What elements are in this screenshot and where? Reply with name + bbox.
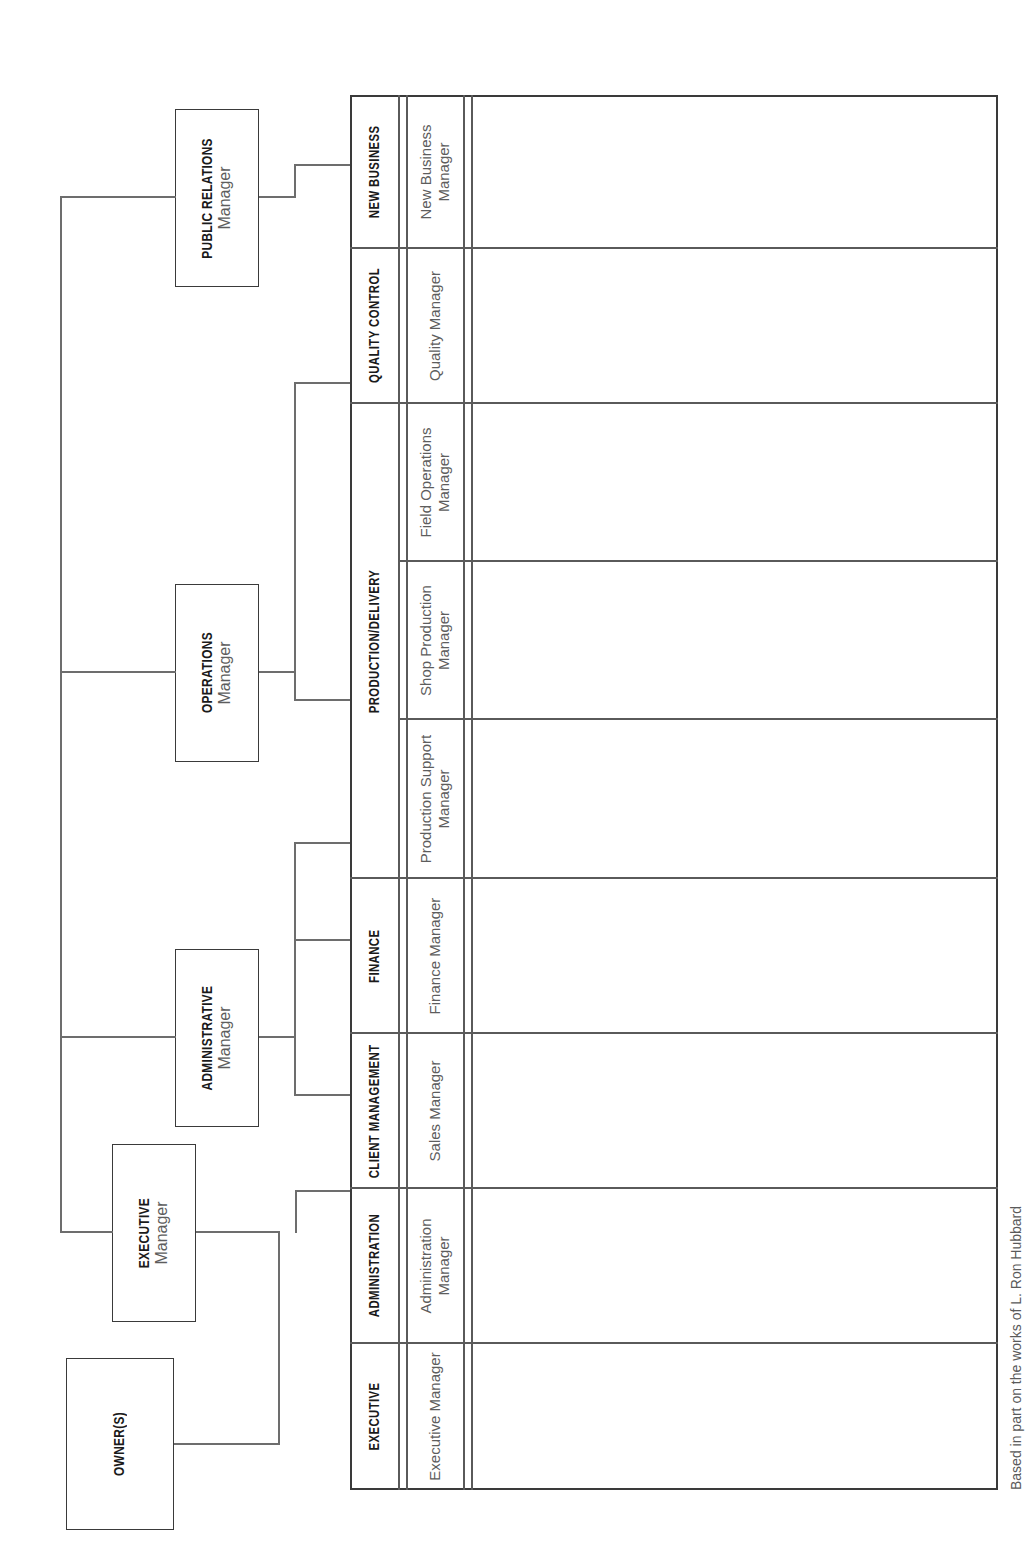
connector-owners-down <box>174 1444 279 1446</box>
matrix-col-divider-client-management <box>350 1033 998 1035</box>
node-public-relations-title: PUBLIC RELATIONS <box>200 138 216 259</box>
division-header-executive-label: EXECUTIVE <box>367 1382 383 1450</box>
division-header-quality-control[interactable]: QUALITY CONTROL <box>352 250 397 402</box>
division-header-administration[interactable]: ADMINISTRATION <box>352 1190 397 1342</box>
matrix-col-divider-production <box>350 403 998 405</box>
division-header-client-management-label: CLIENT MANAGEMENT <box>367 1044 383 1178</box>
matrix-col-divider-administration <box>350 1188 998 1190</box>
division-header-executive[interactable]: EXECUTIVE <box>352 1345 397 1488</box>
manager-cell-shop-production-label: Shop Production Manager <box>417 566 452 715</box>
matrix-col-divider-quality <box>350 248 998 250</box>
connector-administrative-down <box>259 1037 295 1039</box>
rotated-page-wrapper: OWNER(S) EXECUTIVE Manager ADMINISTRATIV… <box>0 0 1030 1562</box>
manager-cell-quality-label: Quality Manager <box>426 271 444 381</box>
connector-operations-down <box>259 672 295 674</box>
division-header-new-business-label: NEW BUSINESS <box>367 126 383 219</box>
matrix-row-divider-1 <box>398 95 400 1490</box>
connector-executive-up <box>60 1232 113 1234</box>
connector-operations-bus <box>294 383 296 701</box>
connector-public-relations-up <box>60 197 176 199</box>
manager-cell-new-business-label: New Business Manager <box>417 100 452 244</box>
matrix-subcol-divider-production-1 <box>398 719 998 721</box>
node-administrative[interactable]: ADMINISTRATIVE Manager <box>175 949 259 1127</box>
manager-cell-finance[interactable]: Finance Manager <box>408 880 462 1032</box>
node-operations-subtitle: Manager <box>216 641 234 704</box>
node-public-relations-subtitle: Manager <box>216 166 234 229</box>
connector-to-new-business-col <box>294 165 350 167</box>
manager-cell-production-support[interactable]: Production Support Manager <box>408 721 462 877</box>
connector-operations-up <box>60 672 176 674</box>
node-administrative-title: ADMINISTRATIVE <box>200 986 216 1091</box>
manager-cell-new-business[interactable]: New Business Manager <box>408 97 462 247</box>
manager-cell-shop-production[interactable]: Shop Production Manager <box>408 563 462 718</box>
connector-to-finance-col <box>294 843 350 845</box>
node-owners[interactable]: OWNER(S) <box>66 1358 174 1530</box>
node-executive[interactable]: EXECUTIVE Manager <box>112 1144 196 1322</box>
division-header-production-delivery-label: PRODUCTION/DELIVERY <box>367 569 383 713</box>
node-operations-title: OPERATIONS <box>200 633 216 714</box>
matrix-col-divider-finance <box>350 878 998 880</box>
division-header-finance[interactable]: FINANCE <box>352 880 397 1032</box>
division-header-administration-label: ADMINISTRATION <box>367 1214 383 1317</box>
node-executive-subtitle: Manager <box>153 1201 171 1264</box>
connector-administrative-up <box>60 1037 176 1039</box>
org-chart-sheet: OWNER(S) EXECUTIVE Manager ADMINISTRATIV… <box>0 0 1030 1562</box>
connector-administrative-bus <box>294 843 296 1096</box>
connector-owners-to-executive <box>278 1232 280 1445</box>
connector-to-client-management-col <box>294 940 350 942</box>
connector-executive-to-matrix <box>295 1190 297 1233</box>
node-operations[interactable]: OPERATIONS Manager <box>175 584 259 762</box>
connector-to-production-col <box>294 700 350 702</box>
division-header-quality-control-label: QUALITY CONTROL <box>367 268 383 383</box>
manager-cell-field-operations[interactable]: Field Operations Manager <box>408 405 462 560</box>
connector-public-relations-down <box>259 197 295 199</box>
connector-executive-to-matrix-v <box>295 1191 350 1193</box>
manager-cell-administration-label: Administration Manager <box>417 1193 452 1339</box>
division-header-finance-label: FINANCE <box>367 929 383 982</box>
manager-cell-field-operations-label: Field Operations Manager <box>417 408 452 557</box>
node-administrative-subtitle: Manager <box>216 1006 234 1069</box>
matrix-subcol-divider-production-2 <box>398 561 998 563</box>
connector-to-quality-col <box>294 383 350 385</box>
node-executive-title: EXECUTIVE <box>137 1198 153 1268</box>
connector-executive-down <box>196 1232 280 1234</box>
connector-top-spine <box>60 197 62 1233</box>
division-header-client-management[interactable]: CLIENT MANAGEMENT <box>352 1035 397 1187</box>
connector-to-administration-col <box>294 1095 350 1097</box>
manager-cell-executive[interactable]: Executive Manager <box>408 1345 462 1488</box>
division-header-production-delivery[interactable]: PRODUCTION/DELIVERY <box>352 405 397 877</box>
matrix-col-divider-executive <box>350 1343 998 1345</box>
manager-cell-client-management[interactable]: Sales Manager <box>408 1035 462 1187</box>
manager-cell-quality[interactable]: Quality Manager <box>408 250 462 402</box>
manager-cell-client-management-label: Sales Manager <box>426 1061 444 1162</box>
manager-cell-executive-label: Executive Manager <box>426 1352 444 1480</box>
matrix-row-divider-4 <box>471 95 473 1490</box>
node-public-relations[interactable]: PUBLIC RELATIONS Manager <box>175 109 259 287</box>
connector-public-relations-bus <box>294 165 296 198</box>
manager-cell-administration[interactable]: Administration Manager <box>408 1190 462 1342</box>
matrix-row-divider-3 <box>463 95 465 1490</box>
manager-cell-finance-label: Finance Manager <box>426 898 444 1015</box>
division-header-new-business[interactable]: NEW BUSINESS <box>352 97 397 247</box>
manager-cell-production-support-label: Production Support Manager <box>417 724 452 874</box>
node-owners-title: OWNER(S) <box>112 1412 128 1476</box>
credit-line: Based in part on the works of L. Ron Hub… <box>1008 1206 1024 1490</box>
